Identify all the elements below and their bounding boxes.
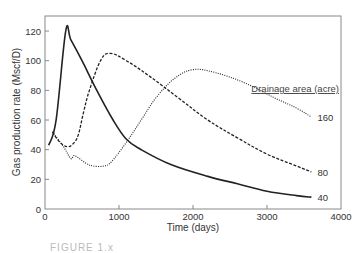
curve-40-acre (49, 26, 312, 198)
y-tick-label: 40 (30, 144, 41, 155)
series-label-80: 80 (317, 167, 328, 178)
y-axis-title: Gas production rate (Mscf/D) (11, 48, 22, 176)
legend-title: Drainage area (acre) (251, 83, 339, 94)
series-label-160: 160 (317, 112, 333, 123)
y-tick-label: 100 (25, 55, 41, 66)
x-axis-title: Time (days) (167, 222, 219, 233)
curve-labels: 4080160 (317, 112, 333, 203)
axis-ticks: 01000200030004000020406080100120 (25, 26, 351, 222)
y-tick-label: 20 (30, 174, 41, 185)
x-tick-label: 2000 (182, 211, 203, 222)
y-tick-label: 60 (30, 115, 41, 126)
series-label-40: 40 (317, 192, 328, 203)
figure-caption: FIGURE 1.x (50, 242, 114, 253)
y-tick-label: 0 (36, 204, 41, 215)
curves (49, 26, 312, 198)
y-tick-label: 120 (25, 26, 41, 37)
plot-border (45, 16, 341, 209)
plot-frame (45, 16, 341, 209)
x-tick-label: 0 (42, 211, 47, 222)
x-tick-label: 1000 (108, 211, 129, 222)
y-tick-label: 80 (30, 85, 41, 96)
curve-80-acre (52, 53, 311, 172)
x-tick-label: 4000 (330, 211, 351, 222)
x-tick-label: 3000 (256, 211, 277, 222)
